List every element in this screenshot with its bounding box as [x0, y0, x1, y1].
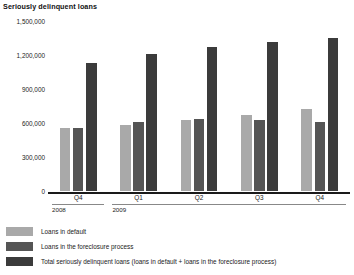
bar-q2-series-0	[180, 119, 193, 192]
x-axis-tick-label: Q4	[48, 194, 108, 201]
legend-item[interactable]: Loans in the foreclosure process	[6, 239, 350, 253]
bar-group	[169, 22, 229, 192]
legend-item[interactable]: Loans in default	[6, 224, 350, 238]
bar-q4-series-1	[314, 121, 327, 192]
chart-legend: Loans in defaultLoans in the foreclosure…	[6, 224, 350, 269]
x-axis-tick-label: Q3	[229, 194, 289, 201]
x-axis-labels: Q4Q1Q2Q3Q420082009	[48, 194, 350, 218]
y-axis-tick-label: 1,500,000	[1, 19, 45, 25]
plot-area	[48, 22, 350, 192]
x-axis-year-span: 2009	[112, 204, 346, 217]
bar-q1-series-0	[119, 124, 132, 192]
y-axis-tick-label: 1,200,000	[1, 53, 45, 59]
bar-q3-series-2	[266, 41, 279, 192]
bar-q1-series-2	[145, 53, 158, 192]
legend-label: Loans in the foreclosure process	[41, 243, 133, 250]
legend-swatch-icon	[6, 242, 33, 251]
x-axis-year-span: 2008	[52, 204, 104, 217]
bar-group	[290, 22, 350, 192]
legend-label: Loans in default	[41, 228, 86, 235]
bar-q2-series-2	[206, 46, 219, 192]
legend-label: Total seriously delinquent loans (loans …	[41, 258, 276, 265]
bar-group	[108, 22, 168, 192]
y-axis-tick-label: 900,000	[1, 87, 45, 93]
bar-q4-series-1	[72, 127, 85, 192]
x-axis-year-label: 2009	[112, 206, 126, 213]
chart-container: Seriously delinquent loans 0300,000600,0…	[0, 0, 354, 275]
bar-group	[48, 22, 108, 192]
y-axis-tick-label: 300,000	[1, 155, 45, 161]
bar-q4-series-2	[85, 62, 98, 192]
bar-q4-series-2	[327, 37, 340, 192]
bar-q4-series-0	[59, 127, 72, 192]
bar-group	[229, 22, 289, 192]
legend-item[interactable]: Total seriously delinquent loans (loans …	[6, 254, 350, 268]
x-axis-tick-label: Q4	[290, 194, 350, 201]
bar-q1-series-1	[132, 121, 145, 192]
x-axis-tick-label: Q2	[169, 194, 229, 201]
legend-swatch-icon	[6, 227, 33, 236]
x-axis-tick-label: Q1	[108, 194, 168, 201]
legend-swatch-icon	[6, 257, 33, 266]
bar-q4-series-0	[300, 108, 313, 192]
bar-q3-series-0	[240, 114, 253, 192]
bar-q3-series-1	[253, 119, 266, 192]
x-axis-year-label: 2008	[52, 206, 66, 213]
y-axis-tick-label: 600,000	[1, 121, 45, 127]
y-axis-tick-label: 0	[1, 189, 45, 195]
bar-q2-series-1	[193, 118, 206, 192]
